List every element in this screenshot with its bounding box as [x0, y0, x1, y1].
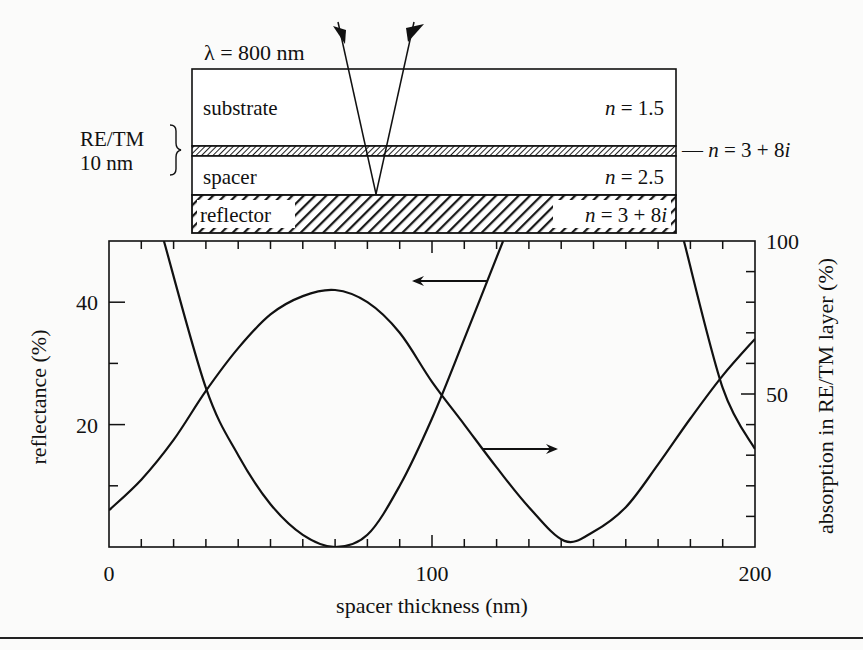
spacer-index: n = 2.5: [605, 165, 664, 189]
figure: λ = 800 nm substrate spacer reflector n …: [0, 0, 863, 650]
y2-axis-label: absorption in RE/TM layer (%): [813, 258, 838, 534]
reflector-index: n = 3 + 8i: [585, 203, 667, 227]
x-tick-label-100: 100: [416, 561, 449, 586]
incident-arrowhead-icon: [333, 26, 346, 44]
reflectance-curve: [164, 241, 755, 547]
layer-stack-diagram: λ = 800 nm substrate spacer reflector n …: [80, 22, 790, 233]
reflected-arrowhead-icon: [406, 24, 424, 42]
retm-layer: [192, 146, 676, 156]
brace-icon: [170, 125, 181, 175]
x-tick-label-0: 0: [104, 561, 115, 586]
retm-thickness-label: 10 nm: [80, 151, 133, 175]
x-axis-ticks: [141, 241, 722, 547]
y2-tick-label-50: 50: [766, 382, 788, 407]
chart: 0 100 200 20 40 50 100 spacer thickness …: [26, 229, 838, 618]
substrate-index: n = 1.5: [605, 96, 664, 120]
y2-axis-ticks: [741, 272, 755, 517]
x-tick-label-200: 200: [739, 561, 772, 586]
retm-index: — n = 3 + 8i: [681, 138, 790, 162]
y-tick-label-20: 20: [76, 413, 98, 438]
y-tick-label-40: 40: [76, 290, 98, 315]
wavelength-label: λ = 800 nm: [204, 40, 305, 65]
spacer-layer: [192, 156, 676, 195]
plot-frame: [109, 241, 755, 547]
reflector-label: reflector: [200, 203, 271, 227]
x-axis-label: spacer thickness (nm): [336, 593, 528, 618]
y2-tick-label-100: 100: [766, 229, 799, 254]
substrate-label: substrate: [203, 96, 278, 120]
y-axis-label: reflectance (%): [26, 330, 51, 465]
retm-label: RE/TM: [80, 127, 144, 151]
spacer-label: spacer: [203, 165, 257, 189]
y-axis-ticks: [109, 302, 125, 486]
